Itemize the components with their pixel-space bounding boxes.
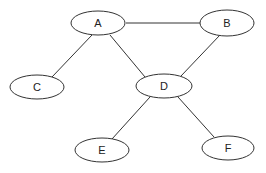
node-d: D [136,74,192,98]
node-a: A [71,11,125,35]
edge-a-d [110,35,145,77]
node-b: B [200,10,254,36]
node-label: A [94,17,102,29]
node-label: E [98,144,105,156]
edge-d-e [112,97,150,139]
edge-b-d [181,35,220,76]
node-label: B [223,17,230,29]
node-f: F [202,136,254,160]
node-c: C [10,75,64,99]
graph-diagram: ABCDEF [0,0,266,173]
node-label: F [225,142,232,154]
edge-a-c [52,35,92,77]
edges-layer [52,23,220,139]
node-label: C [33,81,41,93]
node-e: E [75,138,129,162]
edge-d-f [178,97,214,137]
nodes-layer: ABCDEF [10,10,254,162]
node-label: D [160,80,168,92]
